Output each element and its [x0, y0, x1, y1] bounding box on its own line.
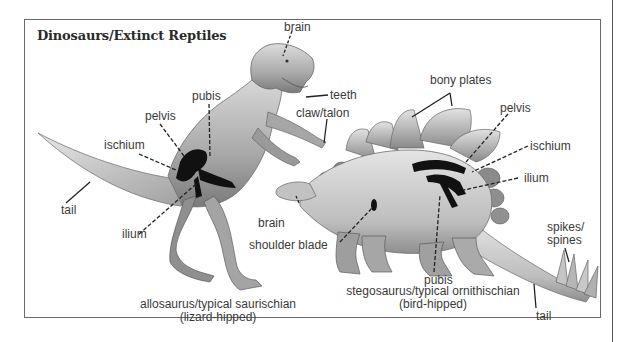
label-allosaurus-ilium: ilium: [122, 228, 147, 241]
caption-allosaurus: allosaurus/typical saurischian (lizard-h…: [118, 298, 318, 324]
label-allosaurus-teeth: teeth: [330, 89, 357, 102]
label-stegosaurus-ischium: ischium: [530, 140, 571, 153]
label-allosaurus-pubis: pubis: [192, 90, 221, 103]
label-allosaurus-ischium: ischium: [104, 139, 145, 152]
label-spikes-line2: spines: [547, 234, 584, 247]
label-stegosaurus-bony-plates: bony plates: [430, 74, 491, 87]
caption-stegosaurus-line2: (bird-hipped): [333, 298, 533, 311]
label-stegosaurus-spikes: spikes/ spines: [547, 221, 584, 247]
caption-stegosaurus: stegosaurus/typical ornithischian (bird-…: [333, 285, 533, 311]
allosaurus-figure: [38, 44, 326, 290]
label-stegosaurus-tail: tail: [536, 310, 551, 323]
label-allosaurus-brain: brain: [284, 21, 311, 34]
label-allosaurus-pelvis: pelvis: [145, 110, 176, 123]
label-stegosaurus-brain: brain: [258, 217, 285, 230]
caption-allosaurus-line2: (lizard-hipped): [118, 311, 318, 324]
label-allosaurus-claw: claw/talon: [296, 107, 349, 120]
label-stegosaurus-pelvis: pelvis: [500, 102, 531, 115]
label-stegosaurus-shoulder-blade: shoulder blade: [249, 239, 328, 252]
label-stegosaurus-ilium: ilium: [524, 172, 549, 185]
label-allosaurus-tail: tail: [61, 204, 76, 217]
